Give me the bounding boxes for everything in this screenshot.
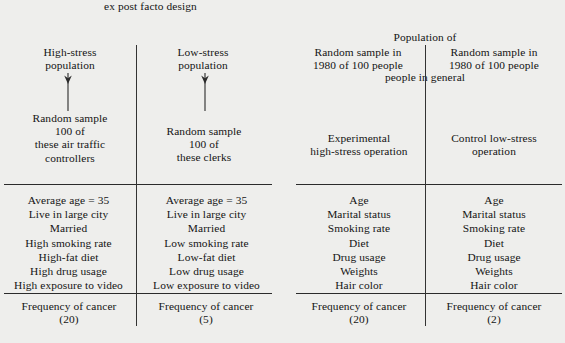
outcome-control-group: Frequency of cancer (2) [432, 300, 556, 326]
down-arrow-icon-high-stress [61, 72, 75, 112]
column-header-control-group: Random sample in 1980 of 100 people [432, 46, 556, 72]
diagram-title-left: ex post facto design [48, 0, 253, 13]
sampling-block-low-stress-population: Random sample 100 of these clerks [143, 125, 265, 165]
rule-attributes-top-right [296, 184, 562, 185]
attribute-list-low-stress-population: Average age = 35 Live in large city Marr… [140, 193, 273, 292]
column-header-low-stress-population: Low-stress population [143, 46, 263, 72]
rule-attributes-top-left [4, 184, 272, 185]
attribute-list-control-group: Age Marital status Smoking rate Diet Dru… [432, 193, 556, 292]
outcome-low-stress-population: Frequency of cancer (5) [141, 300, 271, 326]
rule-outcome-top-left [4, 293, 272, 294]
outcome-high-stress-population: Frequency of cancer (20) [4, 300, 134, 326]
down-arrow-icon-low-stress [198, 72, 212, 112]
rule-outcome-top-right [296, 293, 562, 294]
operation-block-control-group: Control low-stress operation [432, 132, 556, 158]
sampling-block-high-stress-population: Random sample 100 of these air traffic c… [6, 112, 134, 165]
column-header-high-stress-population: High-stress population [10, 46, 130, 72]
column-header-experimental-group: Random sample in 1980 of 100 people [297, 46, 419, 72]
outcome-experimental-group: Frequency of cancer (20) [297, 300, 421, 326]
divider-right-group [425, 45, 426, 326]
attribute-list-experimental-group: Age Marital status Smoking rate Diet Dru… [297, 193, 421, 292]
operation-block-experimental-group: Experimental high-stress operation [297, 132, 421, 158]
divider-left-group [136, 45, 137, 326]
ex-post-facto-diagram: ex post facto design Population of peopl… [0, 0, 565, 343]
attribute-list-high-stress-population: Average age = 35 Live in large city Marr… [2, 193, 135, 292]
diagram-title-right-line1: Population of [330, 31, 520, 44]
